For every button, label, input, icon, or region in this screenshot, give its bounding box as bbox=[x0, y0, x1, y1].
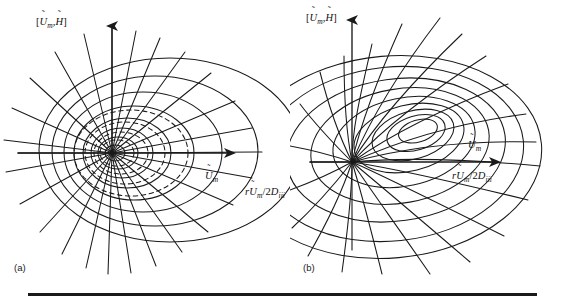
panel-b-x-axis-label-upper: ˜Um bbox=[468, 139, 481, 153]
h-symbol: ˜H bbox=[56, 16, 64, 27]
tilde-accent: ˜ bbox=[470, 133, 473, 143]
subscript-iii: iii bbox=[485, 175, 492, 184]
panel-a-caption: (a) bbox=[14, 262, 26, 273]
figure-root: [˜Um,˜H] ˜Um r˜Um/2Diii [˜Um,˜H] ˜Um r˜U… bbox=[0, 0, 565, 303]
panel-b-plot bbox=[290, 0, 565, 275]
tilde-accent: ˜ bbox=[251, 180, 254, 190]
u-symbol: ˜U bbox=[468, 139, 476, 150]
panel-a-x-axis-label-upper: ˜Um bbox=[205, 170, 218, 184]
equipotential-contours-b bbox=[290, 43, 550, 271]
subscript-iii: iii bbox=[278, 191, 285, 200]
bottom-divider-rule bbox=[28, 293, 537, 296]
panel-b-x-axis-label-lower: r˜Um/2Diii bbox=[452, 170, 492, 184]
panel-b bbox=[290, 0, 565, 275]
panel-b-vertical-axis-label: [˜Um,˜H] bbox=[306, 12, 337, 26]
bracket-close: ] bbox=[333, 12, 337, 23]
subscript-m: m bbox=[476, 144, 482, 153]
tilde-accent: ˜ bbox=[312, 6, 315, 16]
tilde-accent: ˜ bbox=[207, 164, 210, 174]
u-symbol: ˜U bbox=[40, 16, 48, 27]
panel-a-vertical-axis-label: [˜Um,˜H] bbox=[36, 16, 67, 30]
subscript-m: m bbox=[213, 175, 219, 184]
tilde-accent: ˜ bbox=[58, 10, 61, 20]
panel-a-x-axis-label-lower: r˜Um/2Diii bbox=[245, 186, 285, 200]
panel-a bbox=[0, 0, 290, 275]
u-symbol: ˜U bbox=[205, 170, 213, 181]
u-symbol: ˜U bbox=[456, 170, 464, 181]
panel-a-plot bbox=[0, 0, 290, 275]
u-symbol: ˜U bbox=[310, 12, 318, 23]
tilde-accent: ˜ bbox=[458, 164, 461, 174]
flux-lines-a bbox=[4, 28, 262, 274]
h-symbol: ˜H bbox=[326, 12, 334, 23]
u-symbol: ˜U bbox=[249, 186, 257, 197]
bracket-close: ] bbox=[63, 16, 67, 27]
tilde-accent: ˜ bbox=[328, 6, 331, 16]
tilde-accent: ˜ bbox=[42, 10, 45, 20]
panel-b-caption: (b) bbox=[303, 262, 315, 273]
